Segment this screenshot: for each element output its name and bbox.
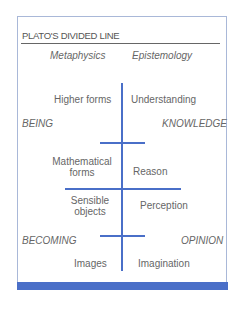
divider-lower xyxy=(100,235,145,237)
faculty-perception: Perception xyxy=(140,200,188,211)
header-metaphysics: Metaphysics xyxy=(50,50,106,61)
faculty-reason: Reason xyxy=(133,166,167,177)
realm-knowledge: KNOWLEDGE xyxy=(162,118,227,129)
object-images: Images xyxy=(74,258,107,269)
diagram-title: PLATO'S DIVIDED LINE xyxy=(22,30,119,41)
title-underline xyxy=(21,43,220,44)
header-epistemology: Epistemology xyxy=(132,50,192,61)
realm-becoming: BECOMING xyxy=(22,235,76,246)
realm-being: BEING xyxy=(22,118,53,129)
object-sensible-objects: Sensible objects xyxy=(70,195,110,217)
realm-opinion: OPINION xyxy=(181,235,223,246)
object-mathematical-forms: Mathematical forms xyxy=(52,156,112,178)
divided-line-vertical xyxy=(121,83,123,271)
divider-upper xyxy=(100,142,145,144)
faculty-understanding: Understanding xyxy=(131,94,196,105)
divider-middle xyxy=(65,188,181,190)
object-higher-forms: Higher forms xyxy=(54,94,111,105)
faculty-imagination: Imagination xyxy=(138,258,190,269)
bottom-accent-bar xyxy=(17,282,228,290)
